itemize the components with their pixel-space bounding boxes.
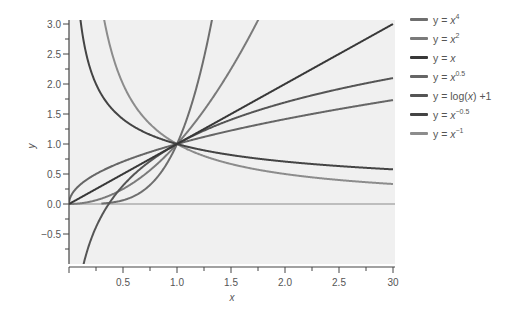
x-axis: 0.51.01.52.02.530 bbox=[69, 267, 399, 288]
y-axis: 3.02.52.01.51.00.50.0−0.5 bbox=[41, 19, 69, 265]
legend-label: y = x2 bbox=[433, 33, 459, 45]
legend-item: y = log(x) +1 bbox=[410, 86, 491, 105]
x-axis-label: x bbox=[229, 292, 236, 303]
x-tick-label: 1.5 bbox=[224, 277, 238, 288]
legend: y = x4y = x2y = xy = x0.5y = log(x) +1y … bbox=[410, 10, 491, 143]
legend-label: y = x−1 bbox=[433, 128, 463, 140]
legend-item: y = x−0.5 bbox=[410, 105, 491, 124]
x-tick-label: 0.5 bbox=[116, 277, 130, 288]
legend-swatch bbox=[410, 75, 428, 78]
legend-swatch bbox=[410, 37, 428, 40]
y-axis-label: y bbox=[26, 143, 37, 150]
legend-swatch bbox=[410, 113, 428, 116]
y-tick-label: −0.5 bbox=[41, 229, 61, 240]
legend-label: y = x−0.5 bbox=[433, 109, 469, 121]
legend-item: y = x−1 bbox=[410, 124, 491, 143]
x-tick-label: 2.5 bbox=[332, 277, 346, 288]
legend-label: y = x0.5 bbox=[433, 71, 465, 83]
y-tick-label: 3.0 bbox=[47, 19, 61, 30]
legend-swatch bbox=[410, 132, 428, 135]
y-tick-label: 1.5 bbox=[47, 109, 61, 120]
x-tick-label: 2.0 bbox=[278, 277, 292, 288]
legend-item: y = x4 bbox=[410, 10, 491, 29]
legend-label: y = x bbox=[433, 52, 455, 64]
legend-label: y = log(x) +1 bbox=[433, 90, 491, 102]
legend-item: y = x2 bbox=[410, 29, 491, 48]
y-tick-label: 2.5 bbox=[47, 49, 61, 60]
plot-area bbox=[69, 20, 395, 264]
legend-item: y = x bbox=[410, 48, 491, 67]
legend-swatch bbox=[410, 18, 428, 21]
y-tick-label: 2.0 bbox=[47, 79, 61, 90]
y-tick-label: 1.0 bbox=[47, 139, 61, 150]
legend-item: y = x0.5 bbox=[410, 67, 491, 86]
x-tick-label: 1.0 bbox=[170, 277, 184, 288]
x-tick-label: 30 bbox=[387, 277, 399, 288]
legend-label: y = x4 bbox=[433, 14, 459, 26]
legend-swatch bbox=[410, 56, 428, 59]
y-tick-label: 0.0 bbox=[47, 199, 61, 210]
y-tick-label: 0.5 bbox=[47, 169, 61, 180]
legend-swatch bbox=[410, 94, 428, 97]
